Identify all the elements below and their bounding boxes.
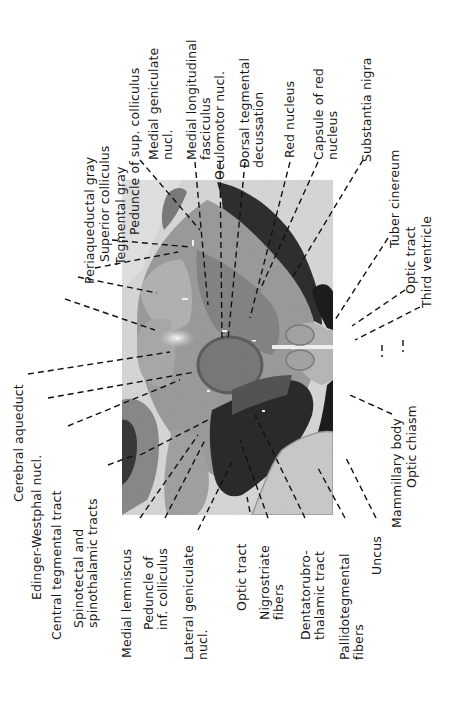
label-dorsal-tegmental-decussation: Dorsal tegmental decussation	[238, 58, 266, 168]
label-optic-tract-right: Optic tract	[404, 226, 418, 294]
label-edinger-westphal: Edinger-Westphal nucl.	[30, 455, 44, 600]
label-uncus: Uncus	[370, 536, 384, 575]
label-lateral-geniculate: Lateral geniculate nucl.	[182, 545, 210, 660]
label-nigrostriate-fibers: Nigrostriate fibers	[258, 545, 286, 620]
label-red-nucleus: Red nucleus	[283, 81, 297, 158]
midbrain-section-photo	[122, 180, 333, 515]
label-medial-geniculate: Medial geniculate nucl.	[147, 48, 175, 160]
label-peduncle-sup-colliculus: Peduncle of sup. colliculus	[128, 68, 142, 235]
label-third-ventricle: Third ventricle	[420, 216, 434, 308]
label-medial-longitudinal-fasciculus: Medial longitudinal fasciculus	[185, 39, 213, 160]
label-tuber-cinereum: Tuber cinereum	[388, 150, 402, 248]
label-peduncle-inf-colliculus: Peduncle of inf. colliculus	[142, 548, 170, 630]
label-oculomotor-nucl: Oculomotor nucl.	[213, 71, 227, 180]
label-pallidotegmental-fibers: Pallidotegmental fibers	[338, 553, 366, 660]
leader-optic-tract-right	[352, 290, 405, 326]
leader-tuber-cinereum	[335, 238, 388, 320]
tissue-illustration	[122, 180, 333, 515]
label-cerebral-aqueduct: Cerebral aqueduct	[12, 384, 26, 502]
label-spinotectal-spinothalamic: Spinotectal and spinothalamic tracts	[72, 498, 100, 628]
label-superior-colliculus: Superior colliculus	[98, 146, 112, 262]
label-central-tegmental-tract: Central tegmental tract	[50, 490, 64, 640]
leader-third-ventricle	[355, 307, 420, 340]
label-substantia-nigra: Substantia nigra	[360, 57, 374, 162]
label-medial-lemniscus: Medial lemniscus	[120, 549, 134, 658]
label-optic-chiasm: Optic chiasm	[405, 405, 419, 488]
label-dentatorubrothalamic-tract: Dentatorubro- thalamic tract	[299, 550, 327, 640]
label-optic-tract-bottom: Optic tract	[235, 543, 249, 611]
label-tegmental-gray: Tegmental gray	[114, 167, 128, 265]
label-capsule-red-nucleus: Capsule of red nucleus	[312, 68, 340, 160]
leader-mammillary-body	[350, 395, 392, 414]
leader-uncus	[345, 456, 376, 518]
label-periaqueductal-gray: Periaqueductal gray	[83, 157, 97, 284]
label-mammillary-body: Mammillary body	[390, 418, 404, 528]
